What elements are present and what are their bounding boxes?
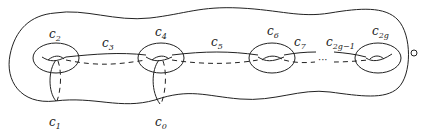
puncture-marker	[411, 50, 417, 56]
curve-c2	[33, 43, 79, 73]
surface-diagram: ··· c2 c3 c4 c5 c6 c7 c2g−1 c2g c1 c0	[0, 0, 432, 137]
curve-c5	[172, 52, 258, 55]
back-arc-3	[284, 60, 315, 63]
curve-c7	[284, 52, 316, 55]
hole-3	[258, 56, 284, 61]
label-c2: c2	[49, 27, 61, 43]
label-c2g: c2g	[372, 24, 389, 40]
label-c3: c3	[102, 36, 114, 52]
curve-c6	[249, 43, 295, 73]
curve-c1	[50, 60, 56, 101]
label-c2g-1: c2g−1	[326, 35, 355, 51]
curve-c0	[153, 60, 160, 104]
hole-1	[42, 56, 66, 61]
label-c6: c6	[267, 24, 279, 40]
curve-c4	[138, 43, 184, 73]
label-c0: c0	[155, 115, 167, 131]
ellipsis: ···	[318, 54, 328, 65]
label-c4: c4	[155, 25, 167, 41]
surface-outline	[9, 8, 408, 104]
back-arc-4	[334, 60, 368, 62]
label-c5: c5	[211, 35, 223, 51]
curve-c2g-1	[334, 52, 366, 57]
back-arc-2	[172, 60, 258, 63]
curve-c2g	[355, 43, 401, 73]
label-c1: c1	[49, 115, 61, 131]
hole-g	[366, 54, 392, 61]
label-c7: c7	[294, 35, 307, 51]
curve-c1-back	[57, 61, 61, 101]
